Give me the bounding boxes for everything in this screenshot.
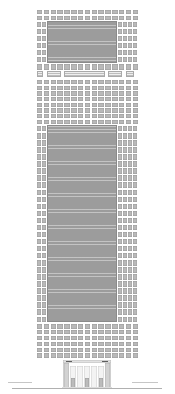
window-cell [133, 64, 138, 70]
window-cell [105, 336, 110, 341]
window-cell [126, 348, 131, 353]
window-cell [57, 324, 62, 329]
window-cell [57, 97, 62, 101]
window-cell [44, 108, 49, 112]
window-cell [92, 97, 97, 101]
podium-pier-left [64, 363, 69, 388]
window-cell [64, 16, 69, 20]
window-cell [128, 57, 132, 62]
window-cell [133, 309, 137, 314]
window-cell [123, 43, 127, 48]
window-cell [112, 16, 117, 20]
tower-right-window-bank [118, 126, 137, 322]
window-cell [112, 91, 117, 95]
window-cell [78, 80, 83, 84]
window-cell [42, 274, 46, 279]
window-cell [92, 108, 97, 112]
window-cell [118, 317, 122, 322]
window-cell [57, 114, 62, 118]
window-cell [128, 211, 132, 216]
window-cell [123, 161, 127, 166]
building-elevation [36, 8, 139, 388]
window-cell [128, 197, 132, 202]
window-cell [37, 239, 41, 244]
window-cell [42, 232, 46, 237]
window-cell [37, 57, 41, 62]
cornice-lintel-right [102, 361, 108, 363]
window-cell [71, 103, 76, 107]
window-cell [42, 218, 46, 223]
window-cell [57, 103, 62, 107]
window-cell [133, 330, 138, 335]
window-cell [128, 267, 132, 272]
window-cell [133, 253, 137, 258]
window-cell [98, 91, 103, 95]
window-cell [92, 330, 97, 335]
window-cell [123, 126, 127, 131]
window-cell [118, 126, 122, 131]
window-cell [126, 342, 131, 347]
window-cell [37, 36, 41, 41]
window-cell [133, 154, 137, 159]
window-cell [133, 80, 138, 84]
window-cell [51, 97, 56, 101]
window-cell [133, 232, 137, 237]
window-cell [92, 86, 97, 90]
window-cell [37, 260, 41, 265]
window-cell [42, 175, 46, 180]
window-cell [37, 10, 42, 14]
window-cell [85, 91, 90, 95]
window-cell [133, 147, 137, 152]
window-cell [44, 353, 49, 358]
window-cell [98, 80, 103, 84]
window-cell [133, 108, 138, 112]
window-cell [37, 274, 41, 279]
entrance-bay [91, 366, 97, 388]
window-cell [42, 302, 46, 307]
window-cell [128, 274, 132, 279]
window-cell [98, 114, 103, 118]
window-cell [85, 324, 90, 329]
window-cell [133, 50, 137, 55]
window-cell [85, 86, 90, 90]
window-cell [128, 22, 132, 27]
window-cell [123, 57, 127, 62]
window-cell [119, 353, 124, 358]
window-cell [42, 204, 46, 209]
window-cell [119, 324, 124, 329]
window-cell [42, 22, 46, 27]
window-cell [78, 97, 83, 101]
window-cell [133, 190, 137, 195]
window-cell [128, 168, 132, 173]
window-cell [98, 336, 103, 341]
window-cell [37, 348, 42, 353]
window-cell [57, 91, 62, 95]
window-cell [64, 86, 69, 90]
window-cell [37, 120, 42, 124]
window-cell [123, 302, 127, 307]
window-cell [92, 120, 97, 124]
window-cell [133, 211, 137, 216]
window-cell [123, 197, 127, 202]
window-cell [119, 108, 124, 112]
window-cell [57, 353, 62, 358]
window-cell [128, 154, 132, 159]
window-cell [133, 246, 137, 251]
window-cell [98, 10, 103, 14]
window-cell [123, 147, 127, 152]
window-cell [44, 91, 49, 95]
window-cell [42, 317, 46, 322]
window-cell [118, 225, 122, 230]
window-cell [98, 16, 103, 20]
cornice-lintel-left [66, 361, 72, 363]
window-cell [126, 120, 131, 124]
window-cell [92, 324, 97, 329]
window-cell [71, 120, 76, 124]
window-cell [123, 309, 127, 314]
window-cell [37, 154, 41, 159]
window-cell [126, 16, 131, 20]
window-cell [85, 64, 90, 70]
window-cell [105, 324, 110, 329]
window-cell [133, 175, 137, 180]
window-cell [64, 353, 69, 358]
